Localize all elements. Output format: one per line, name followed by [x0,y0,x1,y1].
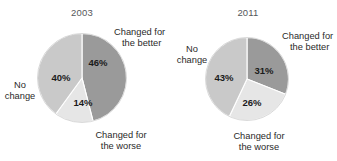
pie-label-worse-2003-line2: the worse [84,141,158,152]
pie-label-worse-2011-line2: the worse [222,142,296,153]
pie-label-better-2003-line1: Changed for [114,27,165,38]
figure-title-cropped [0,0,337,6]
pie-label-worse-2011: Changed for the worse [222,131,296,154]
pie-value-nochange-2011: 43% [214,72,234,83]
chart-year-label-2003: 2003 [62,7,102,18]
pie-label-nochange-2003-line2: change [2,91,38,102]
pie-label-worse-2003: Changed for the worse [84,130,158,153]
pie-label-nochange-2011-line2: change [170,55,214,66]
pie-label-nochange-2003-line1: No [2,80,38,91]
pie-value-worse-2003: 14% [73,97,93,108]
pie-value-better-2011: 31% [254,65,274,76]
pie-label-better-2011: Changed for the better [282,31,333,54]
pie-label-worse-2011-line1: Changed for [222,131,296,142]
pie-label-better-2003: Changed for the better [114,27,165,50]
pie-label-nochange-2011: No change [170,44,214,67]
pie-label-nochange-2011-line1: No [170,44,214,55]
pie-svg-2011: 31% 26% 43% [205,37,289,121]
pie-value-nochange-2003: 40% [51,72,71,83]
pie-label-better-2003-line2: the better [114,38,165,49]
pie-chart-2011: 31% 26% 43% [205,37,289,121]
pie-label-worse-2003-line1: Changed for [84,130,158,141]
pie-chart-figure: 2003 46% 14% 40% Changed for the better … [0,0,337,161]
pie-value-better-2003: 46% [88,57,108,68]
pie-value-worse-2011: 26% [242,97,262,108]
pie-label-better-2011-line2: the better [282,42,333,53]
chart-year-label-2011: 2011 [228,7,268,18]
pie-label-nochange-2003: No change [2,80,38,103]
pie-label-better-2011-line1: Changed for [282,31,333,42]
